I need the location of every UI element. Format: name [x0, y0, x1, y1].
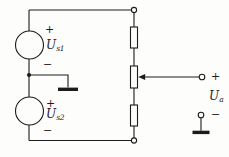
junction-dot	[27, 73, 31, 77]
source-top-voltage-subscript: s1	[56, 44, 64, 53]
output-plus-sign: +	[211, 71, 220, 83]
potentiometer-icon	[131, 66, 138, 88]
resistor-top-icon	[131, 27, 138, 48]
resistor-bottom-icon	[131, 105, 138, 126]
circuit-figure: + Us1 − + Us2 − + Ua −	[0, 0, 229, 157]
output-minus-sign: −	[211, 109, 220, 121]
filled-marks	[27, 73, 145, 80]
output-voltage-base: U	[209, 89, 219, 103]
output-terminal-plus-icon	[199, 74, 205, 80]
output-terminal-minus-icon	[198, 112, 204, 118]
output-voltage-label: Ua	[209, 90, 223, 104]
source-top-minus-sign: −	[43, 59, 52, 71]
source-bottom-voltage-label: Us2	[46, 108, 64, 122]
source-bottom-voltage-base: U	[46, 107, 56, 121]
source-bottom-minus-sign: −	[43, 125, 52, 137]
resistor-symbols	[131, 27, 138, 126]
terminals	[131, 7, 204, 143]
terminal-bottom-icon	[131, 138, 136, 143]
circuit-diagram-canvas	[0, 0, 229, 157]
voltage-source-top-icon	[16, 31, 44, 59]
source-top-voltage-label: Us1	[46, 39, 64, 53]
source-bottom-voltage-subscript: s2	[56, 113, 64, 122]
output-voltage-subscript: a	[219, 95, 223, 104]
source-top-plus-sign: +	[45, 24, 54, 36]
ground-branch-wire	[29, 75, 68, 88]
voltage-source-bottom-icon	[16, 97, 44, 125]
source-top-voltage-base: U	[46, 38, 56, 52]
wiper-arrow-icon	[138, 74, 145, 80]
terminal-top-icon	[131, 7, 136, 12]
